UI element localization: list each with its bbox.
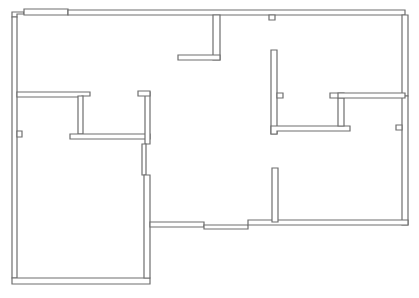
bottom-hall-wall: [150, 222, 204, 227]
right-closet-right-vertical: [338, 96, 344, 126]
right-closet-bottom: [271, 126, 350, 134]
closet-left-vertical: [78, 96, 83, 134]
closet-right-cap: [138, 91, 150, 96]
left-wall-jamb: [17, 131, 22, 137]
top-wall-main: [68, 10, 405, 15]
top-wall-raised: [24, 9, 68, 15]
closet-right-vertical: [145, 92, 150, 144]
central-left-vertical: [144, 175, 150, 278]
central-left-jamb-upper: [142, 144, 146, 175]
upper-center-vertical: [213, 15, 220, 60]
top-wall-left-notch: [12, 12, 24, 17]
closet-bottom: [70, 134, 150, 139]
right-wall-lower: [402, 96, 408, 225]
top-wall-jamb: [269, 15, 275, 20]
bottom-door-threshold: [204, 225, 248, 229]
right-wall-jamb: [396, 125, 402, 130]
left-wall: [12, 17, 17, 278]
right-closet-vertical: [271, 50, 277, 134]
walls-group: [12, 9, 408, 284]
bottom-right-stub: [272, 168, 278, 222]
right-room-top: [338, 93, 405, 98]
right-wall-upper: [402, 15, 408, 96]
upper-center-horizontal: [178, 55, 220, 60]
bottom-wall-left: [12, 278, 150, 284]
floor-plan: [0, 0, 419, 298]
right-closet-jamb: [277, 93, 283, 98]
